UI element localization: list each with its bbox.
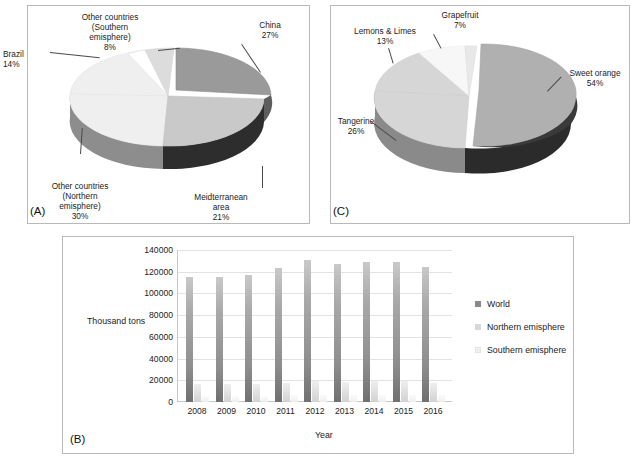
bar-group-2016: 2016 [419, 250, 448, 402]
bar-group-2011: 2011 [272, 250, 301, 402]
bar-world-2016[interactable] [422, 267, 429, 402]
bar-north-2013[interactable] [342, 382, 349, 402]
bar-south-2016[interactable] [438, 395, 445, 402]
bar-north-2012[interactable] [312, 381, 319, 402]
bar-north-2014[interactable] [371, 381, 378, 402]
xtick-2012: 2012 [305, 406, 324, 416]
bar-north-2016[interactable] [430, 383, 437, 403]
bar-world-2014[interactable] [363, 262, 370, 402]
bar-north-2008[interactable] [194, 384, 201, 403]
y-axis-title: Thousand tons [87, 316, 145, 326]
legend: World Northern emisphere Southern emisph… [475, 299, 566, 368]
ytick-140000: 140000 [144, 245, 173, 255]
xtick-2011: 2011 [276, 406, 294, 416]
legend-label-world: World [487, 299, 510, 309]
bar-south-2012[interactable] [320, 395, 327, 402]
bar-group-2012: 2012 [301, 250, 330, 402]
panel-a-tag: (A) [30, 205, 45, 217]
bar-group-2008: 2008 [183, 250, 212, 402]
bar-south-2014[interactable] [379, 395, 386, 402]
legend-swatch-world [475, 301, 481, 307]
bar-world-2012[interactable] [304, 260, 311, 402]
xtick-2013: 2013 [335, 406, 354, 416]
pie-a-label-other-south: Other countries(Southernemisphere)8% [68, 12, 152, 52]
pie-a-label-mediterranean: Meidterraneanarea21% [183, 192, 259, 222]
legend-swatch-southern-emisphere [475, 347, 481, 353]
legend-item-northern-emisphere[interactable]: Northern emisphere [475, 322, 566, 332]
bar-world-2013[interactable] [334, 264, 341, 403]
ytick-40000: 40000 [149, 354, 173, 364]
bar-south-2009[interactable] [232, 396, 239, 402]
bar-world-2009[interactable] [216, 277, 223, 402]
bar-group-2013: 2013 [331, 250, 360, 402]
pie-c-label-grapefruit: Grapefruit7% [431, 10, 489, 30]
plot-area: 0 20000 40000 60000 80000 100000 120000 … [177, 250, 452, 402]
xtick-2008: 2008 [187, 406, 206, 416]
bar-group-2014: 2014 [360, 250, 389, 402]
ytick-20000: 20000 [149, 375, 173, 385]
bar-world-2008[interactable] [186, 277, 193, 402]
legend-label-northern-emisphere: Northern emisphere [487, 322, 565, 332]
xtick-2015: 2015 [394, 406, 413, 416]
legend-label-southern-emisphere: Southern emisphere [487, 345, 566, 355]
xtick-2014: 2014 [364, 406, 383, 416]
leader-mediterranean [262, 166, 263, 188]
legend-item-world[interactable]: World [475, 299, 566, 309]
xtick-2010: 2010 [246, 406, 265, 416]
pie-c-label-lemons-limes: Lemons & Limes13% [343, 26, 427, 46]
panel-b-tag: (B) [70, 433, 85, 445]
pie-c-label-sweet-orange: Sweet orange54% [561, 68, 629, 88]
ytick-0: 0 [168, 397, 173, 407]
bar-group-2015: 2015 [390, 250, 419, 402]
bar-north-2015[interactable] [401, 381, 408, 402]
bar-group-2009: 2009 [213, 250, 242, 402]
panel-b-bar-chart: Thousand tons Year 0 20000 40000 60000 8… [62, 236, 574, 454]
bar-group-2010: 2010 [242, 250, 271, 402]
bar-north-2011[interactable] [283, 383, 290, 403]
bar-south-2011[interactable] [291, 395, 298, 402]
bar-south-2015[interactable] [409, 395, 416, 402]
y-axis-line [177, 250, 178, 402]
ytick-120000: 120000 [144, 267, 173, 277]
bar-world-2010[interactable] [245, 275, 252, 402]
bar-north-2009[interactable] [224, 384, 231, 402]
bar-south-2010[interactable] [261, 396, 268, 403]
panel-a-pie-chart: Other countries(Southernemisphere)8% Bra… [27, 5, 310, 224]
ytick-80000: 80000 [149, 310, 173, 320]
legend-item-southern-emisphere[interactable]: Southern emisphere [475, 345, 566, 355]
panel-c-tag: (C) [333, 205, 349, 217]
ytick-100000: 100000 [144, 288, 173, 298]
xtick-2016: 2016 [423, 406, 442, 416]
ytick-60000: 60000 [149, 332, 173, 342]
pie-a-label-other-north: Other countries(Northernemisphere)30% [38, 181, 122, 221]
bar-north-2010[interactable] [253, 384, 260, 403]
xtick-2009: 2009 [217, 406, 236, 416]
x-axis-title: Year [315, 430, 333, 440]
pie-c-graphic [361, 20, 606, 205]
bar-world-2011[interactable] [275, 268, 282, 402]
pie-a-label-china: China27% [244, 20, 296, 40]
panel-c-pie-chart: Grapefruit7% Lemons & Limes13% Tangerine… [330, 5, 630, 224]
bar-world-2015[interactable] [393, 262, 400, 402]
legend-swatch-northern-emisphere [475, 324, 481, 330]
bar-south-2008[interactable] [202, 396, 209, 403]
bar-south-2013[interactable] [350, 395, 357, 402]
pie-a-slice-china [176, 48, 271, 95]
pie-a-slice-china-wall [264, 95, 272, 122]
